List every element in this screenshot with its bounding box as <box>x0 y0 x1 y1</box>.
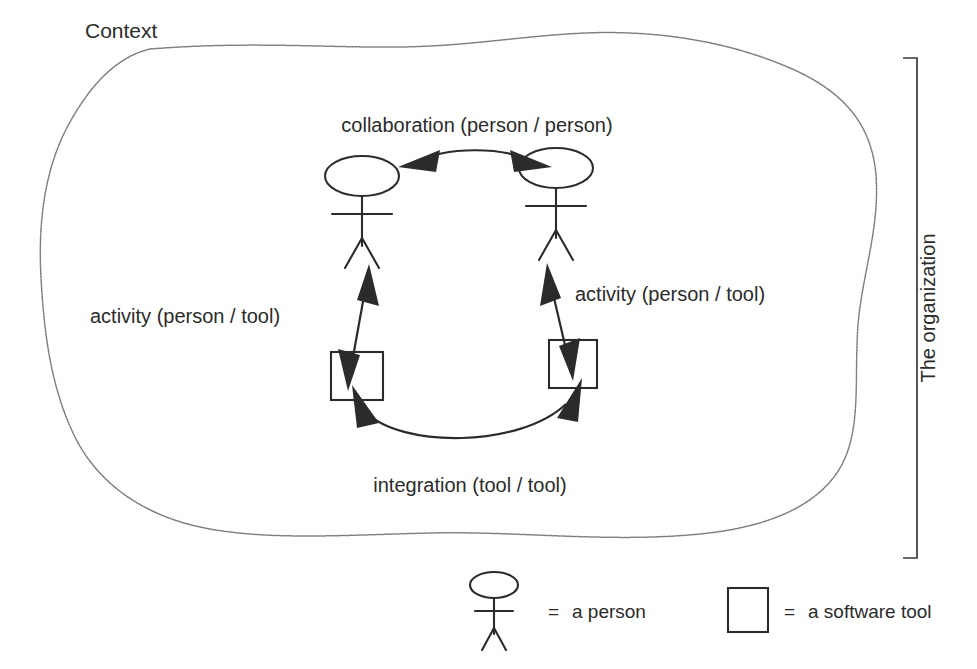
integration-arrow <box>352 378 582 438</box>
diagram-canvas: The organization Context collaboration (… <box>0 0 977 669</box>
organization-bracket <box>903 58 917 558</box>
arrowhead-up <box>357 264 379 306</box>
integration-edge-label: integration (tool / tool) <box>373 474 566 496</box>
arrowhead-left <box>398 150 440 172</box>
legend-person-label: a person <box>572 601 646 622</box>
collaboration-edge-label: collaboration (person / person) <box>341 114 612 136</box>
legend-person-equals: = <box>548 601 559 622</box>
activity-right-edge-label: activity (person / tool) <box>575 283 765 305</box>
legend-person-symbol <box>470 572 518 650</box>
legend-tool-equals: = <box>784 601 795 622</box>
organization-context-diagram: The organization Context collaboration (… <box>0 0 977 669</box>
person-left <box>325 156 399 268</box>
legend-tool-label: a software tool <box>808 601 932 622</box>
arrowhead-up <box>540 263 561 306</box>
activity-left-edge-label: activity (person / tool) <box>90 305 280 327</box>
organization-label: The organization <box>917 234 939 383</box>
legend-tool-symbol <box>728 588 768 632</box>
context-label: Context <box>85 19 158 42</box>
